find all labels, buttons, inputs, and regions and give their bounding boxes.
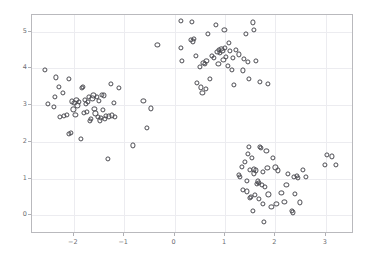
scatter-point: [43, 68, 48, 73]
scatter-point: [45, 102, 50, 107]
scatter-point: [261, 220, 266, 225]
scatter-point: [148, 106, 153, 111]
scatter-point: [275, 168, 280, 173]
scatter-point: [130, 143, 135, 148]
x-tick-label: 2: [272, 238, 276, 246]
scatter-point: [229, 68, 234, 73]
scatter-plot-figure: −2−10123012345: [0, 0, 372, 263]
scatter-point: [66, 77, 71, 82]
y-tick-mark: [28, 67, 31, 68]
scatter-point: [216, 61, 221, 66]
x-tick-label: 1: [222, 238, 226, 246]
scatter-point: [73, 112, 78, 117]
scatter-point: [264, 148, 269, 153]
scatter-point: [247, 144, 252, 149]
scatter-point: [190, 19, 195, 24]
y-tick-mark: [28, 178, 31, 179]
scatter-point: [113, 114, 118, 119]
scatter-point: [54, 75, 59, 80]
scatter-point: [250, 20, 255, 25]
scatter-point: [76, 99, 81, 104]
scatter-point: [244, 178, 249, 183]
scatter-point: [51, 104, 56, 109]
scatter-point: [65, 112, 70, 117]
gridline-horizontal: [32, 105, 352, 106]
x-tick-label: 3: [323, 238, 327, 246]
y-tick-label: 0: [19, 210, 27, 218]
gridline-horizontal: [32, 68, 352, 69]
scatter-point: [243, 159, 248, 164]
y-tick-label: 5: [19, 27, 27, 35]
scatter-point: [260, 169, 265, 174]
scatter-point: [274, 201, 279, 206]
scatter-point: [204, 58, 209, 63]
scatter-point: [52, 95, 57, 100]
x-tick-mark: [274, 233, 275, 236]
scatter-point: [239, 164, 244, 169]
scatter-point: [88, 116, 93, 121]
scatter-point: [282, 199, 287, 204]
scatter-point: [84, 109, 89, 114]
gridline-vertical: [175, 15, 176, 232]
scatter-point: [263, 184, 268, 189]
scatter-point: [108, 81, 113, 86]
scatter-point: [295, 175, 300, 180]
x-tick-mark: [73, 233, 74, 236]
scatter-point: [285, 172, 290, 177]
scatter-point: [247, 77, 252, 82]
scatter-point: [250, 156, 255, 161]
scatter-point: [269, 205, 274, 210]
gridline-vertical: [124, 15, 125, 232]
scatter-point: [205, 32, 210, 37]
gridline-vertical: [74, 15, 75, 232]
scatter-point: [223, 54, 228, 59]
scatter-point: [240, 68, 245, 73]
y-tick-label: 3: [19, 100, 27, 108]
x-tick-mark: [224, 233, 225, 236]
scatter-point: [179, 45, 184, 50]
scatter-point: [193, 53, 198, 58]
scatter-point: [60, 91, 65, 96]
scatter-point: [297, 200, 302, 205]
scatter-point: [68, 130, 73, 135]
scatter-point: [96, 98, 101, 103]
scatter-point: [105, 156, 110, 161]
scatter-point: [254, 168, 259, 173]
scatter-point: [237, 52, 242, 57]
x-tick-mark: [325, 233, 326, 236]
plot-axes-area: [31, 14, 353, 233]
scatter-point: [257, 196, 262, 201]
scatter-point: [78, 136, 83, 141]
scatter-point: [100, 108, 105, 113]
scatter-point: [203, 86, 208, 91]
y-tick-mark: [28, 104, 31, 105]
scatter-point: [248, 195, 253, 200]
scatter-point: [85, 99, 90, 104]
scatter-point: [261, 202, 266, 207]
scatter-point: [292, 191, 297, 196]
scatter-point: [258, 79, 263, 84]
scatter-point: [230, 55, 235, 60]
gridline-horizontal: [32, 142, 352, 143]
scatter-point: [101, 93, 106, 98]
scatter-point: [155, 43, 160, 48]
x-tick-label: 0: [172, 238, 176, 246]
scatter-point: [56, 84, 61, 89]
x-tick-label: −2: [68, 238, 78, 246]
y-tick-mark: [28, 214, 31, 215]
scatter-point: [329, 154, 334, 159]
x-tick-mark: [123, 233, 124, 236]
scatter-point: [265, 81, 270, 86]
scatter-point: [207, 76, 212, 81]
scatter-point: [231, 83, 236, 88]
scatter-point: [226, 40, 231, 45]
scatter-point: [333, 162, 338, 167]
scatter-point: [117, 85, 122, 90]
scatter-point: [227, 48, 232, 53]
scatter-point: [290, 210, 295, 215]
scatter-point: [301, 167, 306, 172]
scatter-point: [266, 192, 271, 197]
gridline-vertical: [275, 15, 276, 232]
scatter-point: [80, 84, 85, 89]
scatter-point: [180, 58, 185, 63]
